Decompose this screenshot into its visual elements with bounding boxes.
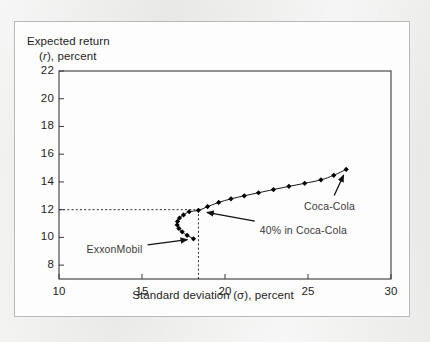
x-axis-label: Standard deviation (σ), percent [15, 289, 411, 301]
data-point-13 [242, 193, 247, 198]
y-axis-label-line2: (r), percent [39, 49, 96, 63]
data-point-9 [196, 208, 201, 213]
data-point-17 [302, 181, 307, 186]
annotation-arrow-forty-percent-coca-cola [207, 212, 255, 221]
y-axis-label-line1: Expected return [27, 34, 110, 48]
screenshot-page: Expected return (r), percent 81012141618… [0, 0, 430, 342]
data-point-19 [331, 173, 336, 178]
annotation-arrow-exxonmobil [148, 240, 188, 245]
data-point-14 [256, 190, 261, 195]
y-tick-label-18: 18 [32, 119, 54, 131]
y-axis-label-suffix: ), percent [47, 50, 97, 62]
data-point-20 [344, 167, 349, 172]
data-point-0 [191, 236, 196, 241]
figure-card: Expected return (r), percent 81012141618… [14, 21, 410, 317]
y-tick-label-22: 22 [32, 64, 54, 76]
y-tick-label-20: 20 [32, 92, 54, 104]
annotation-label-exxonmobil: ExxonMobil [87, 243, 143, 255]
data-point-16 [286, 184, 291, 189]
data-point-10 [205, 204, 210, 209]
data-point-15 [271, 187, 276, 192]
data-point-1 [185, 233, 190, 238]
data-point-12 [228, 196, 233, 201]
data-point-18 [318, 177, 323, 182]
y-tick-label-16: 16 [32, 147, 54, 159]
efficient-frontier-chart: Expected return (r), percent 81012141618… [15, 22, 411, 318]
y-tick-label-10: 10 [32, 230, 54, 242]
annotation-label-coca-cola: Coca-Cola [304, 200, 355, 212]
y-tick-label-8: 8 [32, 258, 54, 270]
y-tick-label-12: 12 [32, 203, 54, 215]
annotation-arrow-coca-cola [334, 175, 343, 196]
plot-canvas [15, 22, 411, 318]
annotation-label-forty-percent-coca-cola: 40% in Coca-Cola [260, 224, 347, 236]
data-point-11 [216, 200, 221, 205]
y-tick-label-14: 14 [32, 175, 54, 187]
